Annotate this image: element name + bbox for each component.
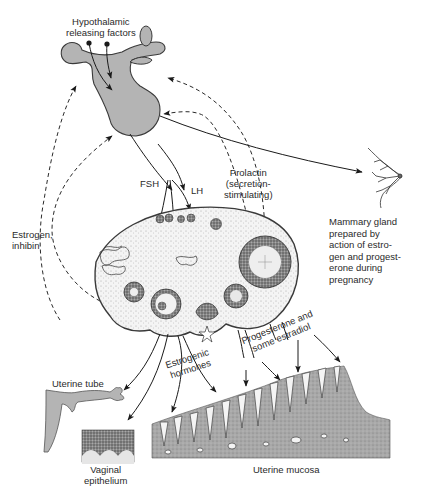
label-lh: LH [191,185,203,196]
arrow-to-vaginal-epithelium [128,334,168,420]
label-vaginal-epithelium: Vaginal epithelium [84,464,127,486]
label-hypothalamic-releasing-factors: Hypothalamic releasing factors [66,16,136,38]
progesterone-arrow [262,362,280,380]
label-prolactin: Prolactin (secretion- stimulating) [224,167,273,200]
label-uterine-tube: Uterine tube [52,378,104,389]
label-line: Prolactin [224,167,273,178]
mammary-gland [368,148,402,208]
antral-follicle [151,289,181,319]
label-line: erone during [329,262,401,274]
label-line: Estrogen, [12,229,53,240]
label-line: inhibin [12,240,53,251]
label-estrogen-inhibin: Estrogen, inhibin [12,229,53,251]
vaginal-epithelium [82,430,134,464]
pituitary-gland [61,26,165,136]
uterine-mucosa [152,366,390,458]
pituitary-body [61,42,165,136]
small-gland [140,26,152,46]
label-line: epithelium [84,475,127,486]
label-line: gen and progest- [329,251,401,263]
growing-follicle [124,282,144,302]
label-line: Mammary gland [329,216,401,228]
label-line: releasing factors [66,27,136,38]
ovary [95,207,298,342]
corpus-luteum-small [224,284,248,308]
label-line: action of estro- [329,239,401,251]
label-mammary-gland: Mammary gland prepared by action of estr… [329,216,401,285]
label-line: Vaginal [84,464,127,475]
label-line: pregnancy [329,274,401,286]
label-fsh: FSH [140,178,159,189]
corpus-luteum-large [239,236,291,288]
label-uterine-mucosa: Uterine mucosa [253,464,320,475]
feedback-arrow-left-outer [40,86,76,320]
prolactin-arrow [160,116,362,172]
label-line: stimulating) [224,189,273,200]
progesterone-arrow [314,335,340,362]
arrow-to-uterine-tube [124,334,160,390]
fsh-arrow [158,144,184,190]
label-line: Hypothalamic [66,16,136,27]
fsh-arrow [172,180,190,210]
label-line: (secretion- [224,178,273,189]
label-line: prepared by [329,228,401,240]
mucosa-tissue [152,366,390,458]
